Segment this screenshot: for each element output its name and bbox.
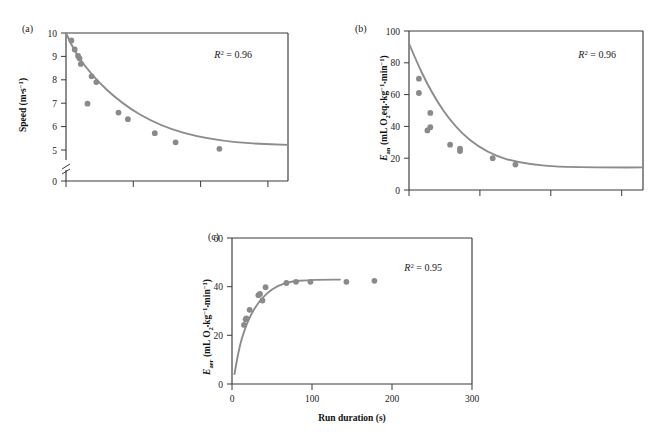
data-point — [241, 322, 247, 328]
data-point — [247, 307, 253, 313]
y-ticklabel-b-40: 40 — [391, 122, 401, 132]
y-ticklabel-a-0: 0 — [52, 177, 57, 187]
panel-b-y-axis-title: Ean (mL O2eq.•kg−1•min−1) — [378, 55, 391, 162]
panel-a-label: (a) — [22, 23, 33, 34]
y-title-c-varsub: aer — [207, 359, 214, 368]
data-point — [263, 284, 269, 290]
panel-a-plot: Speed (m•s−1) — [0, 0, 333, 215]
y-title-c-minsup: −1 — [201, 282, 208, 289]
panel-c-x-axis-title: Run duration (s) — [318, 413, 386, 424]
panel-a-fit-curve — [66, 33, 288, 145]
y-ticklabel-b-100: 100 — [386, 27, 401, 37]
y-ticklabel-b-60: 60 — [391, 90, 401, 100]
panel-b-y-ticks — [404, 31, 409, 190]
r2-c-symbol: R — [403, 262, 410, 273]
data-point — [85, 101, 91, 107]
data-point — [217, 146, 223, 152]
panel-a-y-ticks — [61, 33, 66, 181]
panel-c-fit-curve — [235, 280, 341, 374]
panel-c-data-points — [241, 278, 377, 328]
svg-text:Ean (mL O2eq.•kg−1•min−1): Ean (mL O2eq.•kg−1•min−1) — [378, 55, 391, 162]
data-point — [372, 278, 378, 284]
panel-a-r2-annotation: R2 = 0.96 — [213, 49, 252, 61]
data-point — [490, 155, 496, 161]
panel-b-fit-curve — [409, 44, 643, 168]
panel-b: (b) Ean (mL O2eq.•kg−1•min−1) — [333, 0, 666, 215]
data-point — [93, 79, 99, 85]
data-point — [77, 55, 83, 61]
panel-c-r2-annotation: R2 = 0.95 — [403, 262, 442, 274]
r2-b-value: = 0.96 — [590, 49, 616, 60]
data-point — [152, 130, 158, 136]
data-point — [244, 315, 250, 321]
panel-b-label: (b) — [355, 23, 367, 34]
panel-c-x-ticks — [232, 384, 472, 390]
y-title-c-min: min — [202, 289, 212, 306]
x-ticklabel-c-0: 0 — [230, 394, 235, 404]
y-ticklabel-b-80: 80 — [391, 58, 401, 68]
y-ticklabel-a-8: 8 — [52, 75, 57, 85]
y-title-a-sup: −1 — [17, 81, 24, 88]
y-ticklabel-a-5: 5 — [52, 146, 57, 156]
data-point — [308, 279, 314, 285]
y-ticklabel-c-20: 20 — [214, 331, 224, 341]
data-point — [447, 142, 453, 148]
y-title-b-kgsup: −1 — [378, 84, 385, 91]
y-title-c-kg: kg — [202, 314, 212, 324]
panel-a-y-axis-title: Speed (m•s−1) — [17, 78, 29, 132]
data-point — [284, 280, 290, 286]
y-title-c-var: E — [202, 369, 212, 376]
data-point — [416, 76, 422, 82]
y-title-a-main: Speed (m — [18, 94, 29, 132]
y-title-b-close: ) — [379, 55, 390, 58]
panel-c-y-ticklabels: 60 40 20 0 — [214, 234, 224, 390]
data-point — [293, 279, 299, 285]
data-point — [69, 38, 75, 44]
y-title-c-close: ) — [202, 279, 213, 282]
r2-a-value: = 0.96 — [226, 49, 252, 60]
y-title-b-rest: (mL O — [379, 118, 390, 147]
data-point — [78, 61, 84, 67]
data-point — [89, 73, 95, 79]
y-title-b-min: min — [379, 65, 389, 82]
x-ticklabel-c-300: 300 — [465, 394, 480, 404]
panel-b-x-ticks — [409, 190, 622, 196]
panel-c-x-ticklabels: 0 100 200 300 — [230, 394, 480, 404]
panel-a-y-ticklabels: 10 9 8 7 6 5 0 — [48, 29, 58, 187]
figure-container: (a) Speed (m•s−1) — [0, 0, 666, 441]
data-point — [416, 90, 422, 96]
y-ticklabel-c-0: 0 — [218, 380, 223, 390]
data-point — [425, 127, 431, 133]
data-point — [344, 279, 350, 285]
data-point — [457, 148, 463, 154]
y-title-c-rest: (mL O — [202, 330, 213, 359]
r2-a-symbol: R — [213, 49, 220, 60]
svg-text:Speed (m•s−1): Speed (m•s−1) — [17, 78, 29, 132]
data-point — [257, 291, 263, 297]
y-ticklabel-a-10: 10 — [48, 29, 58, 39]
panel-c-label: (c) — [208, 231, 219, 242]
data-point — [513, 162, 519, 168]
y-ticklabel-b-20: 20 — [391, 154, 401, 164]
panel-a-axis-break-upper — [62, 164, 70, 169]
y-ticklabel-c-40: 40 — [214, 282, 224, 292]
y-title-b-minsup: −1 — [378, 58, 385, 65]
y-ticklabel-b-0: 0 — [395, 186, 400, 196]
data-point — [72, 47, 78, 53]
r2-c-value: = 0.95 — [416, 262, 442, 273]
y-ticklabel-a-9: 9 — [52, 52, 57, 62]
y-title-c-kgsup: −1 — [201, 308, 208, 315]
panel-b-plot: Ean (mL O2eq.•kg−1•min−1) 100 80 60 — [333, 0, 666, 215]
y-ticklabel-a-7: 7 — [52, 99, 57, 109]
panel-a: (a) Speed (m•s−1) — [0, 0, 333, 215]
data-point — [173, 139, 179, 145]
y-ticklabel-a-6: 6 — [52, 122, 57, 132]
y-title-b-rest2: eq. — [379, 103, 389, 115]
y-title-b-kg: kg — [379, 91, 389, 101]
y-title-b-var: E — [379, 154, 389, 161]
data-point — [125, 116, 131, 122]
x-ticklabel-c-200: 200 — [385, 394, 400, 404]
data-point — [116, 110, 122, 116]
panel-c-y-ticks — [227, 238, 232, 384]
panel-a-x-ticks — [66, 181, 268, 187]
